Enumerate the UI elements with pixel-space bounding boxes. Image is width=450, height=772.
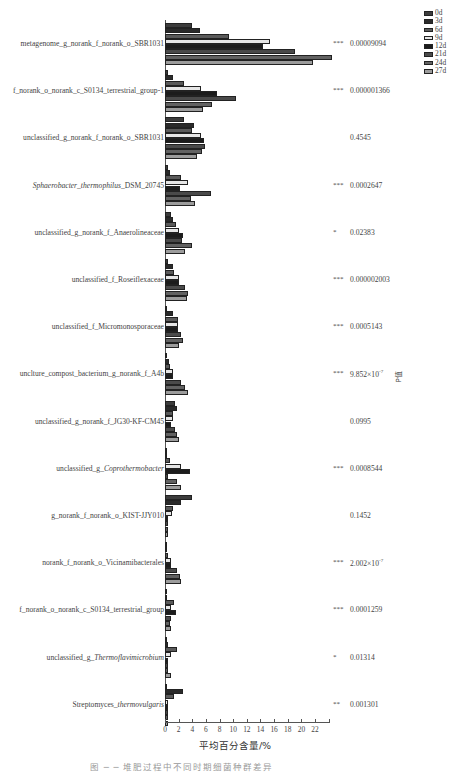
p-value: 0.000002003 [350, 275, 390, 284]
legend-swatch [424, 11, 433, 16]
significance-marker: ** [333, 700, 340, 708]
legend-swatch [424, 69, 433, 74]
significance-marker: *** [333, 369, 344, 377]
x-axis-label: 平均百分含量/% [0, 738, 450, 752]
x-tick [165, 719, 166, 723]
x-tick-label: 18 [284, 725, 291, 734]
x-tick [192, 719, 193, 723]
p-value: 0.1452 [350, 511, 371, 520]
significance-marker: *** [333, 605, 344, 613]
p-value-axis-label: P值 [393, 371, 403, 382]
x-tick [247, 719, 248, 723]
x-tick-label: 6 [204, 725, 208, 734]
x-tick [260, 719, 261, 723]
significance-marker: *** [333, 322, 344, 330]
x-tick-label: 14 [257, 725, 264, 734]
category-label: unclassified_g_norank_f_JG30-KF-CM45 [35, 417, 164, 426]
legend-swatch [424, 61, 433, 66]
p-value: 0.4545 [350, 133, 371, 142]
x-tick-label: 8 [218, 725, 222, 734]
category-label: unclassified_g_Thermoflavimicrobium [47, 653, 164, 662]
significance-marker: * [333, 228, 337, 236]
p-value: 0.0008544 [350, 464, 382, 473]
bar-27d [165, 437, 179, 442]
bar-27d [165, 107, 203, 112]
bar-27d [165, 485, 181, 490]
bar-27d [165, 343, 179, 348]
x-tick [179, 719, 180, 723]
category-label: norank_f_norank_o_Vicinamibacterales [42, 558, 164, 567]
x-tick [288, 719, 289, 723]
bar-27d [165, 673, 171, 678]
legend-swatch [424, 44, 433, 49]
x-tick-label: 20 [298, 725, 305, 734]
significance-marker: *** [333, 464, 344, 472]
bar-27d [165, 532, 168, 537]
significance-marker: *** [333, 181, 344, 189]
significance-marker: *** [333, 39, 344, 47]
p-value: 0.00009094 [350, 39, 386, 48]
category-label: unclassified_f_Micromonosporaceae [52, 322, 164, 331]
legend-swatch [424, 36, 433, 41]
x-tick [301, 719, 302, 723]
legend-swatch [424, 52, 433, 57]
category-label: f_norank_o_norank_c_S0134_terrestrial_gr… [19, 605, 164, 614]
x-tick-label: 12 [243, 725, 250, 734]
p-value: 0.0005143 [350, 322, 382, 331]
x-tick-label: 22 [311, 725, 318, 734]
legend-swatch [424, 28, 433, 33]
legend-label: 27d [435, 66, 446, 75]
category-label: unclassified_g_norank_f_Anaerolineaceae [35, 228, 164, 237]
x-tick [274, 719, 275, 723]
bar-27d [165, 626, 171, 631]
p-value: 9.852×10-7 [350, 369, 383, 379]
x-tick-label: 4 [190, 725, 194, 734]
category-label: Streptomyces_thermovulgaris [72, 700, 164, 709]
significance-marker: * [333, 653, 337, 661]
bar-27d [165, 154, 197, 159]
x-tick-label: 2 [177, 725, 181, 734]
x-tick [315, 719, 316, 723]
x-tick-label: 10 [229, 725, 236, 734]
x-tick [329, 719, 330, 723]
bar-27d [165, 201, 195, 206]
category-label: Sphaerobacter_thermophilus_DSM_20745 [33, 181, 164, 190]
bar-27d [165, 60, 313, 65]
p-value: 0.000001366 [350, 86, 390, 95]
legend-swatch [424, 19, 433, 24]
x-tick [220, 719, 221, 723]
x-tick [206, 719, 207, 723]
category-label: unclassified_g_norank_f_norank_o_SBR1031 [23, 133, 164, 142]
category-label: unclture_compost_bacterium_g_norank_f_A4… [20, 369, 164, 378]
category-label: f_norank_o_norank_c_S0134_terrestrial_gr… [13, 86, 164, 95]
bar-27d [165, 579, 181, 584]
bar-27d [165, 390, 188, 395]
x-tick-label: 16 [270, 725, 277, 734]
p-value: 0.0995 [350, 417, 371, 426]
x-tick-label: 0 [163, 725, 167, 734]
x-tick [233, 719, 234, 723]
figure-caption: 图 ─ ─ 堆肥过程中不同时期细菌种群差异 [90, 760, 273, 772]
category-label: metagenome_g_norank_f_norank_o_SBR1031 [21, 39, 164, 48]
category-label: unclassified_g_Coprothermobacter [56, 464, 164, 473]
p-value: 0.01314 [350, 653, 375, 662]
category-label: unclassified_f_Roseiflexaceae [72, 275, 164, 284]
p-value: 2.002×10-7 [350, 558, 383, 568]
p-value: 0.0001259 [350, 605, 382, 614]
significance-marker: *** [333, 86, 344, 94]
p-value: 0.0002647 [350, 181, 382, 190]
significance-marker: *** [333, 275, 344, 283]
category-label: g_norank_f_norank_o_KIST-JJY010 [51, 511, 164, 520]
significance-marker: *** [333, 558, 344, 566]
p-value: 0.02383 [350, 228, 375, 237]
bar-27d [165, 249, 185, 254]
p-value: 0.001301 [350, 700, 378, 709]
bar-27d [165, 296, 187, 301]
bar-12d [165, 469, 190, 474]
